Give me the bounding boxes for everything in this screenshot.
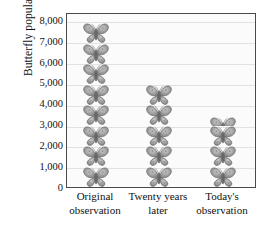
pictogram-column-3 [202, 116, 244, 188]
y-tick-label-7000: 7,000 [20, 37, 66, 47]
butterfly-symbol [138, 105, 180, 126]
butterfly-symbol [75, 167, 117, 188]
butterfly-symbol [138, 167, 180, 188]
butterfly-symbol [202, 167, 244, 188]
butterfly-symbol [138, 146, 180, 167]
butterfly-symbol [75, 105, 117, 126]
butterfly-icon [208, 126, 238, 147]
y-tick-label-4000: 4,000 [20, 99, 66, 109]
y-tick-text: 3,000 [39, 119, 66, 130]
butterfly-symbol [75, 23, 117, 44]
x-tick-line: Today's [205, 190, 239, 202]
butterfly-icon [144, 85, 174, 106]
butterfly-symbol [202, 126, 244, 147]
butterfly-symbol [75, 64, 117, 85]
butterfly-symbol [75, 44, 117, 65]
butterfly-icon [81, 64, 111, 85]
butterfly-symbol [75, 85, 117, 106]
butterfly-icon [81, 44, 111, 65]
butterfly-icon [81, 105, 111, 126]
y-tick-label-8000: 8,000 [20, 16, 66, 26]
pictogram-column-1 [75, 23, 117, 187]
butterfly-symbol-partial [202, 116, 244, 126]
butterfly-symbol [202, 146, 244, 167]
y-tick-text: 6,000 [39, 57, 66, 68]
butterfly-icon [81, 85, 111, 106]
butterfly-icon [208, 167, 238, 188]
butterfly-icon [208, 116, 238, 126]
y-tick-text: 7,000 [39, 36, 66, 47]
y-tick-label-3000: 3,000 [20, 120, 66, 130]
y-tick-text: 2,000 [39, 140, 66, 151]
y-tick-label-6000: 6,000 [20, 58, 66, 68]
butterfly-symbol [138, 85, 180, 106]
butterfly-symbol [138, 126, 180, 147]
butterfly-icon [144, 126, 174, 147]
y-tick-text: 4,000 [39, 98, 66, 109]
butterfly-icon [144, 146, 174, 167]
y-tick-text: 8,000 [39, 15, 66, 26]
butterfly-symbol [75, 146, 117, 167]
plot-area [66, 13, 256, 188]
y-tick-label-2000: 2,000 [20, 141, 66, 151]
butterfly-icon [208, 146, 238, 167]
pictogram-column-2 [138, 85, 180, 188]
butterfly-icon [81, 23, 111, 44]
butterfly-icon [144, 105, 174, 126]
butterfly-symbol [75, 126, 117, 147]
x-tick-label-3: Today's observation [174, 190, 270, 217]
butterfly-icon [81, 126, 111, 147]
x-tick-line: observation [174, 204, 270, 218]
y-tick-text: 5,000 [39, 77, 66, 88]
butterfly-icon [81, 146, 111, 167]
y-tick-text: 1,000 [39, 161, 66, 172]
butterfly-population-pictogram-chart: Butterfly populations 01,0002,0003,0004,… [0, 0, 273, 227]
x-tick-line: Original [77, 190, 114, 202]
y-tick-label-1000: 1,000 [20, 162, 66, 172]
butterfly-icon [81, 167, 111, 188]
butterfly-icon [144, 167, 174, 188]
y-tick-label-5000: 5,000 [20, 78, 66, 88]
